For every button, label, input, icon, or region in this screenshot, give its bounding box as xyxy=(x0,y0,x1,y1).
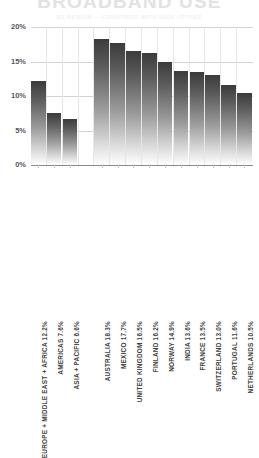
axis-tick xyxy=(197,165,198,168)
bar xyxy=(142,53,157,165)
axis-tick xyxy=(102,165,103,168)
bar xyxy=(237,93,252,165)
category-label: NORWAY 14.9% xyxy=(168,321,175,372)
chart-title: BROADBAND USE xyxy=(0,0,259,12)
axis-tick xyxy=(229,165,230,168)
y-axis-tick-label: 0% xyxy=(15,161,26,169)
category-label: NETHERLANDS 10.5% xyxy=(247,321,254,393)
y-axis-tick-label: 10% xyxy=(11,92,26,100)
category-label: ASIA + PACIFIC 6.6% xyxy=(73,321,80,390)
bar xyxy=(221,85,236,165)
axis-tick xyxy=(213,165,214,168)
category-label: PORTUGAL 11.6% xyxy=(231,321,238,380)
category-label: FRANCE 13.5% xyxy=(199,321,206,371)
bar xyxy=(158,62,173,165)
category-labels: EUROPE + MIDDLE EAST + AFRICA 12.2%AMERI… xyxy=(31,166,253,327)
y-axis-tick-label: 15% xyxy=(11,58,26,66)
axis-tick xyxy=(54,165,55,168)
chart-subtitle: BY REGION — COUNTRIES WITH HIGH UPTAKE xyxy=(0,13,259,21)
category-label: AMERICAS 7.6% xyxy=(57,321,64,375)
plot-area: 0%5%10%15%20% xyxy=(31,27,253,165)
bar xyxy=(174,71,189,165)
bar xyxy=(63,119,78,165)
category-label: EUROPE + MIDDLE EAST + AFRICA 12.2% xyxy=(41,321,48,458)
bar xyxy=(94,39,109,165)
axis-tick xyxy=(118,165,119,168)
axis-tick xyxy=(149,165,150,168)
y-axis-tick-label: 5% xyxy=(15,127,26,135)
bar xyxy=(190,72,205,165)
bar xyxy=(47,113,62,165)
category-label: INDIA 13.6% xyxy=(184,321,191,361)
category-label: SWITZERLAND 13.0% xyxy=(215,321,222,392)
axis-tick xyxy=(38,165,39,168)
category-label: AUSTRALIA 18.3% xyxy=(104,321,111,381)
bar xyxy=(126,51,141,165)
axis-tick xyxy=(165,165,166,168)
axis-tick xyxy=(70,165,71,168)
bars-layer xyxy=(31,27,253,165)
y-axis-tick-label: 20% xyxy=(11,23,26,31)
chart-header: BROADBAND USE BY REGION — COUNTRIES WITH… xyxy=(0,0,259,21)
axis-tick xyxy=(181,165,182,168)
category-label: FINLAND 16.2% xyxy=(152,321,159,372)
axis-tick xyxy=(133,165,134,168)
bar xyxy=(31,81,46,165)
bar xyxy=(110,43,125,165)
category-label: UNITED KINGDOM 16.5% xyxy=(136,321,143,402)
category-label: MEXICO 17.7% xyxy=(120,321,127,369)
axis-tick xyxy=(244,165,245,168)
bar xyxy=(205,75,220,165)
